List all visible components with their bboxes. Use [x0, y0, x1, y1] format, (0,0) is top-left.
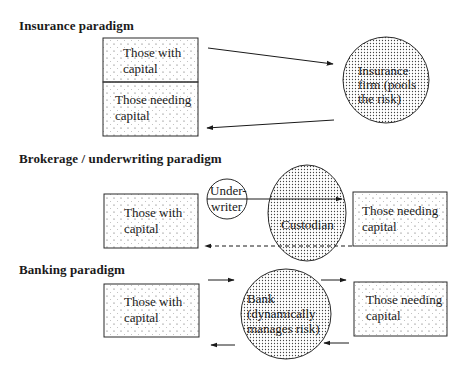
box-label-line1: Those with: [124, 205, 183, 220]
custodian-ellipse: Custodian: [268, 165, 346, 261]
box-label-line2: capital: [124, 221, 159, 236]
bank-circle: Bank (dynamically manages risk): [241, 269, 331, 359]
circle-label-line2: firm (pools: [358, 77, 416, 92]
box-label-line1: Those with: [124, 294, 183, 309]
banking-section: Those with capital Bank (dynamically man…: [104, 269, 447, 359]
those-with-capital-box: Those with capital: [104, 284, 199, 337]
box-label-line1: Those with: [123, 45, 182, 60]
arrow-to-needing-capital: [207, 120, 334, 128]
insurance-section: Those with capital Those needing capital…: [103, 37, 429, 136]
those-needing-capital-box: Those needing capital: [353, 192, 447, 246]
arrow-to-insurance-firm: [208, 48, 333, 64]
brokerage-section: Those with capital Custodian Under- writ…: [104, 165, 447, 261]
box-label-line2: capital: [124, 310, 159, 325]
those-needing-capital-box: Those needing capital: [103, 82, 198, 136]
those-with-capital-box: Those with capital: [104, 194, 198, 248]
box-label-line1: Those needing: [366, 292, 443, 307]
underwriter-label-line2: writer: [211, 199, 243, 214]
circle-label-line1: Insurance: [358, 63, 409, 78]
bank-label-line1: Bank: [247, 291, 275, 306]
box-label-line1: Those needing: [115, 92, 192, 107]
circle-label-line3: the risk): [358, 91, 401, 106]
those-with-capital-box: Those with capital: [103, 38, 198, 82]
box-label-line2: capital: [115, 108, 150, 123]
box-label-line1: Those needing: [362, 203, 439, 218]
box-label-line2: capital: [123, 61, 158, 76]
those-needing-capital-box: Those needing capital: [354, 282, 447, 336]
box-label-line2: capital: [362, 219, 397, 234]
underwriter-label-line1: Under-: [210, 183, 247, 198]
paradigm-diagram: Those with capital Those needing capital…: [0, 0, 465, 375]
box-label-line2: capital: [366, 308, 401, 323]
custodian-label: Custodian: [281, 217, 334, 232]
bank-label-line3: manages risk): [247, 321, 320, 336]
bank-label-line2: (dynamically: [247, 306, 316, 321]
insurance-firm-circle: Insurance firm (pools the risk): [343, 37, 429, 123]
